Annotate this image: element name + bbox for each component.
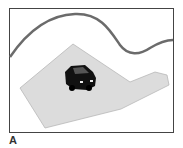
panel-label: A xyxy=(9,134,17,146)
diagram-figure xyxy=(0,0,183,148)
